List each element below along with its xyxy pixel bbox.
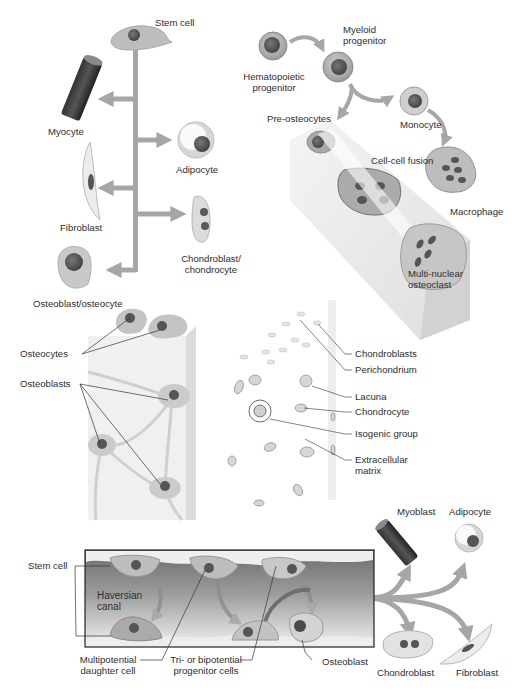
label-myeloid-line1: Myeloid	[343, 24, 386, 35]
label-ecm-line1: Extracellular	[355, 454, 408, 465]
adipocyte-output-icon	[455, 524, 483, 552]
label-osteoblasts: Osteoblasts	[20, 378, 71, 389]
label-progenitor-line1: Tri- or bipotential	[162, 654, 250, 665]
label-chondroblast-output: Chondroblast	[377, 667, 434, 678]
cartilage-panel	[228, 300, 352, 506]
label-multipotential-line1: Multipotential	[74, 654, 142, 665]
label-osteoblast-osteocyte: Osteoblast/osteocyte	[33, 298, 123, 309]
label-osteoclast-line1: Multi-nuclear	[408, 268, 463, 279]
label-multipotential-line2: daughter cell	[74, 665, 142, 676]
label-lacuna: Lacuna	[355, 391, 386, 402]
label-haversian-stem-cell: Stem cell	[28, 560, 67, 571]
fibroblast-icon	[83, 142, 100, 220]
label-hematopoietic-line2: progenitor	[236, 82, 312, 93]
label-multinuclear-osteoclast: Multi-nuclear osteoclast	[408, 268, 463, 290]
msc-differentiation-panel	[58, 26, 214, 288]
adipocyte-icon	[178, 122, 214, 158]
label-chondroblast: Chondroblast/ chondrocyte	[176, 253, 246, 275]
bone-block-panel	[80, 309, 196, 520]
label-adipocyte: Adipocyte	[176, 164, 218, 175]
stem-cell-shape	[111, 26, 172, 50]
label-perichondrium: Perichondrium	[355, 364, 417, 375]
label-chondrocyte: Chondrocyte	[355, 406, 409, 417]
label-canal-line2: canal	[97, 601, 142, 612]
label-osteoblast: Osteoblast	[322, 656, 368, 667]
label-multipotential-daughter: Multipotential daughter cell	[74, 654, 142, 676]
myoblast-icon	[374, 517, 419, 566]
label-adipocyte-output: Adipocyte	[449, 506, 491, 517]
label-isogenic-group: Isogenic group	[355, 428, 418, 439]
label-fibroblast-output: Fibroblast	[456, 667, 498, 678]
label-macrophage: Macrophage	[450, 206, 503, 217]
label-myocyte: Myocyte	[48, 126, 84, 137]
osteoblast-icon	[58, 247, 91, 289]
label-myoblast: Myoblast	[397, 506, 435, 517]
label-progenitor-cells: Tri- or bipotential progenitor cells	[162, 654, 250, 676]
label-stem-cell: Stem cell	[155, 17, 194, 28]
label-haversian-canal: Haversian canal	[97, 590, 142, 612]
label-monocyte: Monocyte	[400, 119, 442, 130]
label-hematopoietic-line1: Hematopoietic	[236, 71, 312, 82]
label-fibroblast: Fibroblast	[60, 222, 102, 233]
label-hematopoietic-progenitor: Hematopoietic progenitor	[236, 71, 312, 93]
label-chondroblasts: Chondroblasts	[355, 348, 417, 359]
label-osteoclast-line2: osteoclast	[408, 279, 463, 290]
label-extracellular-matrix: Extracellular matrix	[355, 454, 408, 476]
label-osteocytes: Osteocytes	[20, 348, 68, 359]
label-myeloid-line2: progenitor	[343, 35, 386, 46]
label-pre-osteocytes: Pre-osteocytes	[267, 113, 331, 124]
chondroblast-output-icon	[383, 631, 433, 658]
label-ecm-line2: matrix	[355, 465, 408, 476]
myocyte-icon	[61, 53, 104, 122]
label-chondroblast-line1: Chondroblast/	[176, 253, 246, 264]
diagram-canvas	[0, 0, 522, 690]
label-progenitor-line2: progenitor cells	[162, 665, 250, 676]
label-cell-cell-fusion: Cell-cell fusion	[371, 155, 433, 166]
chondroblast-icon	[192, 196, 210, 242]
label-myeloid-progenitor: Myeloid progenitor	[343, 24, 386, 46]
label-canal-line1: Haversian	[97, 590, 142, 601]
label-chondroblast-line2: chondrocyte	[176, 264, 246, 275]
